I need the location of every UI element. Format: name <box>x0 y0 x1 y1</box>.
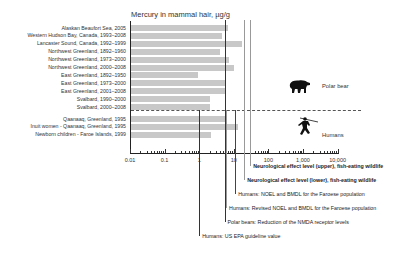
row-label: Svalbard, 1990–2000 <box>77 95 126 103</box>
bar <box>131 72 198 78</box>
minor-tick <box>332 151 333 153</box>
row-label: Northwest Greenland, 1892–1960 <box>48 47 126 55</box>
minor-tick <box>285 151 286 153</box>
row-label: East Greenland, 1973–2000 <box>61 79 126 87</box>
minor-tick <box>185 151 186 153</box>
major-tick <box>303 149 304 153</box>
minor-tick <box>330 151 331 153</box>
bar <box>131 96 210 102</box>
minor-tick <box>255 151 256 153</box>
reference-line <box>250 20 251 166</box>
reference-line-label: Polar bears: Reduction of the NMDA recep… <box>228 218 349 226</box>
row-label: Lancaster Sound, Canada, 1992–1999 <box>37 39 126 47</box>
major-tick <box>130 149 131 153</box>
bar <box>131 33 222 39</box>
row-label: Alaskan Beaufort Sea, 2005 <box>61 24 126 32</box>
minor-tick <box>151 151 152 153</box>
row-label: Inuit women - Qaanaaq, Greenland, 1995 <box>31 122 126 130</box>
minor-tick <box>289 151 290 153</box>
reference-line-label: Humans: NOEL and BMDL for the Faroese po… <box>238 190 365 198</box>
minor-tick <box>263 151 264 153</box>
minor-tick <box>258 151 259 153</box>
x-tick-label: 0.1 <box>161 157 169 163</box>
reference-line-label: Humans: Revised NOEL and BMDL for the Fa… <box>229 204 376 212</box>
bar <box>131 65 234 71</box>
reference-line <box>199 110 200 236</box>
chart-title: Mercury in mammal hair, µg/g <box>131 10 230 19</box>
minor-tick <box>157 151 158 153</box>
minor-tick <box>279 151 280 153</box>
minor-tick <box>147 151 148 153</box>
major-tick <box>165 149 166 153</box>
minor-tick <box>228 151 229 153</box>
y-axis <box>130 21 131 154</box>
bar <box>131 25 228 31</box>
bar <box>131 49 220 55</box>
minor-tick <box>220 151 221 153</box>
minor-tick <box>210 151 211 153</box>
major-tick <box>338 149 339 153</box>
minor-tick <box>216 151 217 153</box>
reference-line <box>244 20 245 180</box>
group-label-humans: Humans <box>322 132 344 138</box>
row-label: East Greenland, 2001–2008 <box>61 87 126 95</box>
human-hunter-icon <box>293 115 319 137</box>
minor-tick <box>175 151 176 153</box>
minor-tick <box>192 151 193 153</box>
bar <box>131 88 226 94</box>
reference-line-label: Neurological effect level (upper), fish-… <box>253 162 383 170</box>
minor-tick <box>298 151 299 153</box>
minor-tick <box>320 151 321 153</box>
minor-tick <box>189 151 190 153</box>
row-label: Northwest Greenland, 1973–2000 <box>48 55 126 63</box>
minor-tick <box>295 151 296 153</box>
minor-tick <box>313 151 314 153</box>
minor-tick <box>261 151 262 153</box>
row-label: Northwest Greenland, 2000–2008 <box>48 63 126 71</box>
minor-tick <box>293 151 294 153</box>
group-divider <box>131 110 361 111</box>
polar-bear-icon <box>289 79 311 94</box>
reference-line <box>226 110 227 208</box>
group-label-polar-bear: Polar bear <box>322 83 349 89</box>
minor-tick <box>181 151 182 153</box>
row-label: Newborn children - Faroe Islands, 1999 <box>35 130 126 138</box>
minor-tick <box>159 151 160 153</box>
bar <box>131 57 229 63</box>
x-tick-label: 0.01 <box>125 157 136 163</box>
row-label: Qaanaaq, Greenland, 1995 <box>63 115 126 123</box>
reference-line-label: Neurological effect level (lower), fish-… <box>247 176 376 184</box>
row-label: Svalbard, 2000–2008 <box>77 103 126 111</box>
major-tick <box>268 149 269 153</box>
minor-tick <box>327 151 328 153</box>
reference-line-label: Humans: US EPA guideline value <box>202 232 280 240</box>
minor-tick <box>154 151 155 153</box>
reference-line <box>225 20 226 222</box>
bar <box>131 80 225 86</box>
minor-tick <box>140 151 141 153</box>
minor-tick <box>194 151 195 153</box>
bar <box>131 124 238 130</box>
row-label: East Greenland, 1892–1950 <box>61 71 126 79</box>
bar <box>131 116 225 122</box>
minor-tick <box>324 151 325 153</box>
reference-line <box>235 110 236 194</box>
row-label: Western Hudson Bay, Canada, 1993–2008 <box>28 31 126 39</box>
